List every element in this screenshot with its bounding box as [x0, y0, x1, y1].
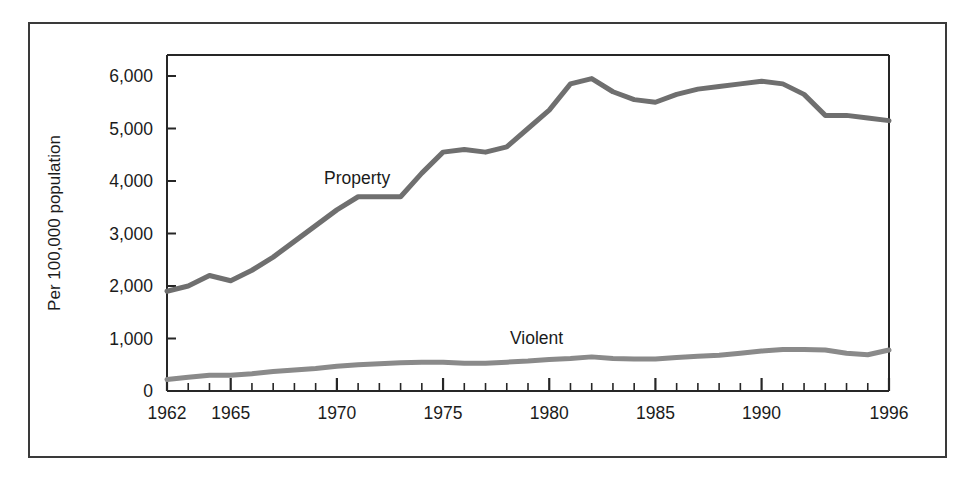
- x-axis-tick-label: 1990: [742, 403, 781, 423]
- y-axis-tick-label: 6,000: [109, 66, 153, 86]
- y-axis-tick-label: 2,000: [109, 276, 153, 296]
- x-axis-tick-label: 1985: [636, 403, 675, 423]
- x-axis-tick-label: 1965: [211, 403, 250, 423]
- y-axis-tick-label: 0: [143, 381, 153, 401]
- y-axis-ticks: [167, 76, 176, 339]
- y-axis-tick-label: 1,000: [109, 329, 153, 349]
- y-axis-title: Per 100,000 population: [45, 135, 64, 311]
- x-axis-ticks: [167, 378, 889, 391]
- y-axis-tick-label: 3,000: [109, 224, 153, 244]
- series-annotation-violent: Violent: [510, 328, 563, 348]
- figure-frame: 01,0002,0003,0004,0005,0006,000 19621965…: [28, 22, 947, 458]
- x-axis-tick-label: 1962: [148, 403, 187, 423]
- x-axis-tick-label: 1970: [317, 403, 356, 423]
- series-annotation-property: Property: [324, 168, 390, 188]
- x-axis-tick-label: 1975: [424, 403, 463, 423]
- line-chart: 01,0002,0003,0004,0005,0006,000 19621965…: [30, 24, 945, 456]
- series-line-violent: [167, 350, 889, 380]
- x-axis-tick-label: 1996: [870, 403, 909, 423]
- x-axis-tick-labels: 19621965197019751980198519901996: [148, 403, 909, 423]
- y-axis-tick-labels: 01,0002,0003,0004,0005,0006,000: [109, 66, 153, 401]
- y-axis-tick-label: 4,000: [109, 171, 153, 191]
- y-axis-tick-label: 5,000: [109, 119, 153, 139]
- x-axis-tick-label: 1980: [530, 403, 569, 423]
- series-line-property: [167, 79, 889, 292]
- screenshot-page: 01,0002,0003,0004,0005,0006,000 19621965…: [0, 0, 967, 482]
